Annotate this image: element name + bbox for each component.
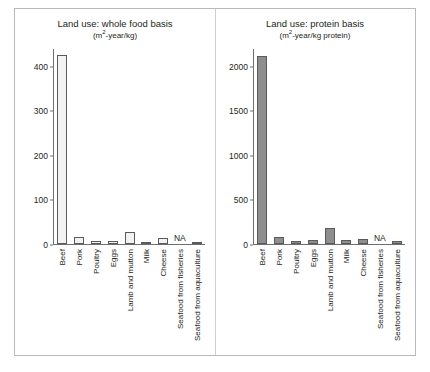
bar-slot (121, 49, 138, 244)
x-axis-category-label: Seafood from aquaculture (392, 249, 401, 341)
y-axis-tick-mark (250, 245, 253, 246)
y-axis-tick-label: 1000 (229, 151, 248, 161)
x-label-slot: Beef (254, 247, 271, 351)
bar-slot (321, 49, 338, 244)
bar[interactable] (141, 242, 151, 244)
bar-slot (288, 49, 305, 244)
chart-subtitle: (m2-year/kg) (15, 30, 215, 41)
y-axis-tick-mark (50, 245, 53, 246)
x-label-slot: Milk (338, 247, 355, 351)
bar-slot (254, 49, 271, 244)
x-axis-category-label: Seafood from aquaculture (192, 249, 201, 341)
x-label-slot: Milk (138, 247, 155, 351)
plot-area-left: 0100200300400 NA (53, 49, 205, 245)
subtitle-prefix: (m (280, 31, 289, 40)
x-label-slot: Cheese (355, 247, 372, 351)
y-axis-tick-mark (250, 155, 253, 156)
bar-slot: NA (371, 49, 388, 244)
bar-slot (271, 49, 288, 244)
x-axis-line (253, 244, 405, 245)
na-annotation: NA (374, 233, 386, 243)
subtitle-suffix: -year/kg) (106, 31, 138, 40)
bar[interactable] (125, 232, 135, 244)
x-label-slot: Poultry (88, 247, 105, 351)
y-axis-tick-label: 400 (34, 62, 48, 72)
bar[interactable] (57, 55, 67, 244)
x-axis-category-label: Pork (275, 249, 284, 265)
x-axis-labels-left: BeefPorkPoultryEggsLamb and muttonMilkCh… (54, 247, 205, 351)
y-axis-tick-mark (50, 155, 53, 156)
chart-title: Land use: protein basis (215, 18, 415, 30)
y-axis-tick-label: 300 (34, 106, 48, 116)
y-axis-tick-mark (250, 200, 253, 201)
chart-title-block-right: Land use: protein basis (m2-year/kg prot… (215, 18, 415, 41)
y-axis-tick-label: 500 (234, 195, 248, 205)
bar[interactable] (91, 241, 101, 244)
x-label-slot: Beef (54, 247, 71, 351)
y-axis-tick-mark (50, 200, 53, 201)
x-axis-category-label: Seafood from fisheries (175, 249, 184, 329)
bar[interactable] (74, 237, 84, 244)
chart-title: Land use: whole food basis (15, 18, 215, 30)
x-axis-category-label: Eggs (108, 249, 117, 267)
x-label-slot: Eggs (304, 247, 321, 351)
na-annotation: NA (174, 233, 186, 243)
y-axis-tick-mark (50, 66, 53, 67)
y-axis-tick-label: 200 (34, 151, 48, 161)
bar-slot (104, 49, 121, 244)
bar[interactable] (392, 241, 402, 244)
x-axis-category-label: Poultry (91, 249, 100, 274)
x-label-slot: Lamb and mutton (321, 247, 338, 351)
chart-title-block-left: Land use: whole food basis (m2-year/kg) (15, 18, 215, 41)
y-axis-tick-label: 1500 (229, 106, 248, 116)
bar-slot (54, 49, 71, 244)
x-axis-category-label: Beef (58, 249, 67, 265)
x-axis-category-label: Lamb and mutton (125, 249, 134, 311)
bar[interactable] (358, 239, 368, 244)
bar[interactable] (257, 56, 267, 244)
subtitle-prefix: (m (93, 31, 102, 40)
x-axis-category-label: Pork (75, 249, 84, 265)
x-axis-line (53, 244, 205, 245)
x-label-slot: Pork (271, 247, 288, 351)
bar-slot (188, 49, 205, 244)
bar-series-right: NA (254, 49, 405, 244)
bar-slot (155, 49, 172, 244)
x-axis-category-label: Milk (142, 249, 151, 263)
x-axis-category-label: Poultry (291, 249, 300, 274)
y-axis-tick-label: 0 (243, 240, 248, 250)
chart-panel-protein-basis: Land use: protein basis (m2-year/kg prot… (215, 9, 415, 355)
x-axis-category-label: Eggs (308, 249, 317, 267)
bar[interactable] (274, 237, 284, 244)
chart-subtitle: (m2-year/kg protein) (215, 30, 415, 41)
x-axis-category-label: Seafood from fisheries (375, 249, 384, 329)
x-axis-category-label: Cheese (159, 249, 168, 277)
bar[interactable] (341, 240, 351, 244)
y-axis-tick-label: 100 (34, 195, 48, 205)
bar-slot (138, 49, 155, 244)
bar-series-left: NA (54, 49, 205, 244)
bar-slot (388, 49, 405, 244)
x-label-slot: Pork (71, 247, 88, 351)
bar-slot (304, 49, 321, 244)
x-label-slot: Poultry (288, 247, 305, 351)
x-axis-category-label: Beef (258, 249, 267, 265)
bar[interactable] (325, 228, 335, 244)
bar[interactable] (108, 241, 118, 244)
plot-area-right: 0500100015002000 NA (253, 49, 405, 245)
y-axis-tick-mark (250, 111, 253, 112)
bar[interactable] (158, 238, 168, 244)
y-axis-tick-mark (250, 66, 253, 67)
bar[interactable] (291, 241, 301, 244)
figure-frame: Land use: whole food basis (m2-year/kg) … (14, 8, 416, 356)
x-axis-category-label: Cheese (359, 249, 368, 277)
bar[interactable] (192, 242, 202, 244)
x-label-slot: Seafood from aquaculture (188, 247, 205, 351)
x-axis-labels-right: BeefPorkPoultryEggsLamb and muttonMilkCh… (254, 247, 405, 351)
bar[interactable] (308, 240, 318, 244)
bar-slot (88, 49, 105, 244)
x-label-slot: Seafood from aquaculture (388, 247, 405, 351)
subtitle-suffix: -year/kg protein) (292, 31, 350, 40)
x-label-slot: Cheese (155, 247, 172, 351)
x-axis-category-label: Lamb and mutton (325, 249, 334, 311)
